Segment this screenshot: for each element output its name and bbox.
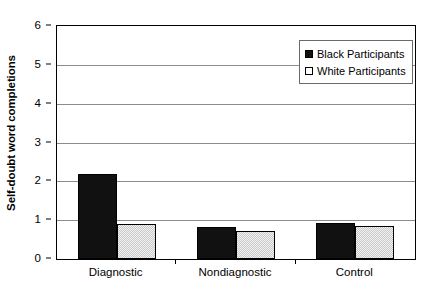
bar-diagnostic-white [117, 224, 156, 259]
x-tick-label: Control [336, 266, 373, 278]
bar-diagnostic-black [78, 174, 117, 259]
y-tick-label: 2 [35, 174, 41, 186]
bar-nondiagnostic-white [236, 231, 275, 259]
y-tick-mark [46, 25, 51, 26]
y-tick-label: 6 [35, 19, 41, 31]
legend-item: White Participants [305, 62, 406, 79]
y-tick-mark [46, 219, 51, 220]
y-tick-mark [46, 63, 51, 64]
y-tick-mark [46, 180, 51, 181]
x-axis-tick-labels: DiagnosticNondiagnosticControl [56, 266, 414, 286]
bar-control-white [355, 226, 394, 259]
legend-item-label: White Participants [317, 65, 406, 77]
gridline [57, 104, 415, 105]
y-tick-mark [46, 141, 51, 142]
y-tick-label: 5 [35, 58, 41, 70]
y-axis-tick-labels: 0123456 [22, 25, 46, 258]
y-axis-title-text: Self-doubt word completions [5, 55, 17, 211]
y-tick-label: 1 [35, 213, 41, 225]
legend-swatch-white-square-icon [305, 67, 313, 75]
legend-item-label: Black Participants [317, 48, 404, 60]
bar-chart-figure: Self-doubt word completions 0123456 Diag… [0, 0, 436, 298]
y-tick-label: 0 [35, 252, 41, 264]
y-tick-label: 4 [35, 97, 41, 109]
x-category-separator [295, 259, 296, 264]
y-tick-label: 3 [35, 136, 41, 148]
x-tick-label: Diagnostic [89, 266, 143, 278]
legend-swatch-black-square-icon [305, 50, 313, 58]
y-axis-title: Self-doubt word completions [0, 0, 22, 265]
gridline [57, 143, 415, 144]
x-category-separator [175, 259, 176, 264]
chart-legend: Black ParticipantsWhite Participants [299, 40, 413, 84]
y-tick-mark [46, 102, 51, 103]
bar-nondiagnostic-black [197, 227, 236, 259]
legend-item: Black Participants [305, 45, 406, 62]
x-tick-label: Nondiagnostic [199, 266, 272, 278]
bar-control-black [316, 223, 355, 259]
y-tick-mark [46, 258, 51, 259]
